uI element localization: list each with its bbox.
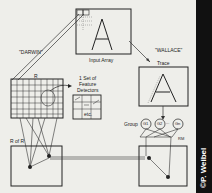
feature-detectors-label-3: Detectors — [77, 88, 98, 93]
g1-label: G1 — [143, 122, 148, 126]
credit-text: ©P. Weibel — [199, 148, 208, 188]
trace-label: Trace — [157, 61, 170, 66]
darwin-label: "DARWIN" — [19, 50, 43, 55]
rm-label: RM — [178, 137, 184, 141]
r-label: R — [34, 74, 38, 79]
g2-label: G2 — [157, 122, 162, 126]
gn-label: Gn — [175, 122, 180, 126]
input-array-label: Input Array — [89, 58, 113, 63]
r-of-r-label: R of R — [10, 139, 24, 144]
diagram-lines — [0, 0, 212, 193]
dots-label: ... — [166, 121, 169, 125]
wallace-label: "WALLACE" — [155, 48, 182, 53]
etc-label: etc. — [84, 112, 92, 117]
group-label: Group — [124, 122, 138, 127]
